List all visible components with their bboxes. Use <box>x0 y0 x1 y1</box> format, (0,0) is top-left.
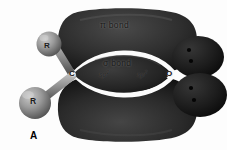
lone-pair-dot <box>189 59 193 63</box>
r-group-sphere-upper <box>37 32 62 57</box>
oxygen-lone-pair-upper-lobe <box>172 36 224 78</box>
lone-pair-dot <box>192 98 196 102</box>
lone-pair-dot <box>189 86 193 90</box>
r-group-sphere-lower <box>19 87 51 119</box>
orbital-diagram-canvas <box>0 0 227 150</box>
oxygen-lone-pair-lower-lobe <box>173 73 227 117</box>
lone-pair-dot <box>187 48 191 52</box>
orbital-diagram-figure: π bond σ bond sp2 sp2 C O R R A <box>0 0 227 150</box>
carbon-atom-marker <box>70 71 75 76</box>
oxygen-atom-marker <box>167 71 173 77</box>
